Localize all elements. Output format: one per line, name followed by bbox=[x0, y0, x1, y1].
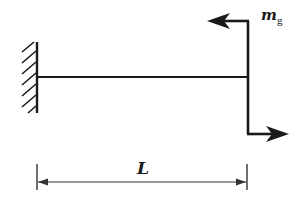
length-dimension: L bbox=[37, 158, 247, 190]
dimension-arrow-left-icon bbox=[38, 179, 48, 186]
cantilever-diagram: mg L bbox=[0, 0, 304, 211]
dimension-arrow-right-icon bbox=[236, 179, 246, 186]
length-label: L bbox=[136, 158, 149, 178]
wall-hatching bbox=[22, 42, 36, 113]
fixed-support bbox=[22, 42, 37, 113]
moment-label: mg bbox=[261, 6, 283, 26]
